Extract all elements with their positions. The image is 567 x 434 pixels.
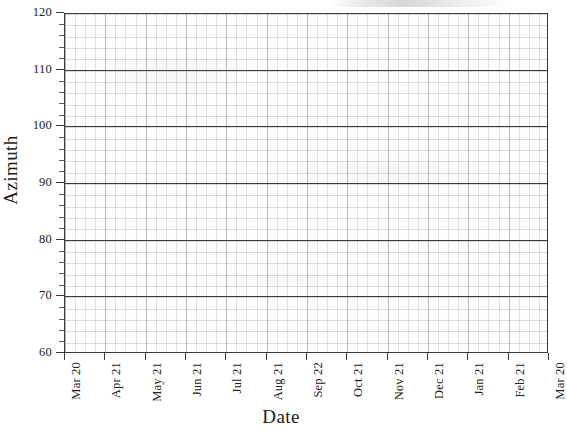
y-tick-100 [56,125,64,126]
x-tick-label-7: Oct 21 [352,362,365,397]
y-tick-label-90: 90 [6,176,52,188]
y-axis: 12011010090807060 [0,0,64,434]
month-gridlines [65,14,547,352]
x-tick-label-5: Aug 21 [272,362,285,400]
major-gridline-120 [65,13,547,14]
x-tick-label-2: May 21 [151,362,164,402]
paper-texture [65,14,547,352]
x-tick-2 [145,353,146,360]
y-tick-120 [56,12,64,13]
x-tick-label-12: Mar 20 [554,362,567,400]
x-tick-label-9: Dec 21 [433,362,446,399]
x-tick-1 [104,353,105,360]
x-tick-8 [387,353,388,360]
title-trace-artifact [330,0,510,7]
x-tick-label-10: Jan 21 [473,362,486,396]
x-tick-11 [508,353,509,360]
x-tick-3 [185,353,186,360]
major-gridline-100 [65,126,547,127]
major-gridline-90 [65,183,547,184]
y-tick-label-110: 110 [6,63,52,75]
x-tick-6 [306,353,307,360]
y-tick-90 [56,182,64,183]
major-gridline-80 [65,240,547,241]
x-tick-4 [225,353,226,360]
y-tick-70 [56,295,64,296]
x-tick-label-3: Jun 21 [191,362,204,396]
x-tick-5 [266,353,267,360]
x-tick-label-11: Feb 21 [514,362,527,398]
x-tick-label-1: Apr 21 [110,362,123,398]
data-series-layer [65,14,547,352]
x-tick-label-8: Nov 21 [393,362,406,400]
x-tick-label-4: Jul 21 [231,362,244,393]
y-tick-label-70: 70 [6,289,52,301]
plot-area [64,13,548,353]
x-tick-label-6: Sep 22 [312,362,325,398]
x-tick-label-0: Mar 20 [70,362,83,400]
x-tick-7 [346,353,347,360]
x-tick-9 [427,353,428,360]
y-tick-110 [56,69,64,70]
x-tick-0 [64,353,65,360]
y-tick-label-120: 120 [6,6,52,18]
x-tick-12 [548,353,549,360]
x-axis-title-text: Date [262,406,299,427]
x-tick-10 [467,353,468,360]
x-axis-title: Date [0,406,562,428]
y-tick-label-100: 100 [6,119,52,131]
major-gridline-110 [65,70,547,71]
y-tick-label-80: 80 [6,233,52,245]
major-gridline-70 [65,296,547,297]
minor-gridlines [65,14,547,352]
y-tick-80 [56,239,64,240]
